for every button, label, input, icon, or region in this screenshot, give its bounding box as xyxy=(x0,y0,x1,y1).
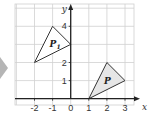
x-axis-arrow-icon xyxy=(134,96,140,101)
grid-border xyxy=(15,4,134,105)
x-tick-label: 2 xyxy=(104,103,109,113)
axes xyxy=(15,4,140,101)
triangle-label: P xyxy=(103,76,111,86)
y-tick-label: 4 xyxy=(62,21,67,31)
coordinate-diagram: PP1-2-10123124xy xyxy=(0,0,156,120)
x-tick-label: -2 xyxy=(30,103,38,113)
y-axis-label: y xyxy=(61,4,68,14)
x-tick-label: 3 xyxy=(122,103,127,113)
label-main: P xyxy=(103,76,111,86)
x-tick-label: -1 xyxy=(49,103,57,113)
x-tick-label: 0 xyxy=(68,103,73,113)
y-tick-label: 1 xyxy=(62,76,67,86)
pointer-arrow-icon xyxy=(0,57,8,79)
x-tick-label: 1 xyxy=(86,103,91,113)
x-axis-label: x xyxy=(142,102,147,112)
y-axis-arrow-icon xyxy=(68,4,73,10)
label-subscript: 1 xyxy=(56,43,60,50)
y-tick-label: 2 xyxy=(62,58,67,68)
grid xyxy=(15,4,134,105)
